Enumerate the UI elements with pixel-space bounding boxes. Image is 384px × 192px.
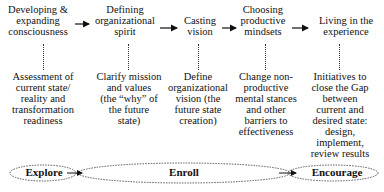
dotted-connector [339,44,340,70]
desc-initiatives: Initiatives to close the Gap between cur… [300,71,380,159]
stage-developing-consciousness: Developing & expanding consciousness [0,4,76,37]
dotted-connector [265,44,266,70]
dotted-connector [198,44,199,70]
stage-choosing-mindsets: Choosing productive mindsets [232,4,294,37]
phase-encourage: Encourage [302,166,372,178]
stage-living-experience: Living in the experience [308,15,384,37]
phase-explore: Explore [14,166,74,178]
stage-defining-spirit: Defining organizational spirit [86,4,164,37]
dotted-connector [128,44,129,70]
dotted-connector [43,44,44,70]
phase-enroll: Enroll [154,166,214,178]
desc-change-stances: Change non- productive mental stances an… [230,71,302,137]
stage-casting-vision: Casting vision [176,15,224,37]
desc-assessment: Assessment of current state/ reality and… [0,71,86,126]
desc-clarify-mission: Clarify mission and values (the “why” of… [88,71,170,126]
desc-define-vision: Define organizational vision (the future… [165,71,231,126]
